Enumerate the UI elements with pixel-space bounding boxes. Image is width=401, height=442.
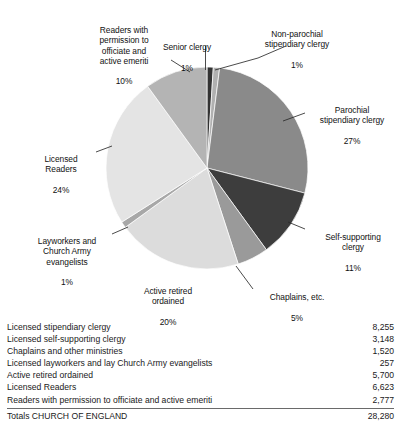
table-cell-value: 6,623 — [302, 382, 394, 394]
table-row-total: Totals CHURCH OF ENGLAND28,280 — [7, 408, 394, 423]
table-cell-label: Licensed self-supporting clergy — [7, 334, 302, 346]
table-cell-value: 257 — [302, 358, 394, 370]
summary-table-container: Licensed stipendiary clergy8,255Licensed… — [7, 322, 394, 423]
pie-label-chaplains: Chaplains, etc. 5% — [255, 282, 339, 323]
pie-label-layworkers-text: Layworkers andChurch Armyevangelists — [38, 236, 96, 266]
pie-label-parochial-pct: 27% — [344, 136, 361, 146]
pie-label-layworkers-pct: 1% — [61, 277, 73, 287]
table-row: Active retired ordained5,700 — [7, 370, 394, 382]
pie-label-non-parochial: Non-parochialstipendiary clergy 1% — [250, 19, 344, 70]
pie-label-readers-permission: Readers withpermission toofficiate andac… — [78, 15, 170, 86]
table-cell-label: Active retired ordained — [7, 370, 302, 382]
table-total-value: 28,280 — [302, 408, 394, 423]
pie-label-non-parochial-pct: 1% — [291, 60, 303, 70]
pie-label-self-supporting-text: Self-supportingclergy — [325, 232, 381, 252]
table-cell-label: Licensed Readers — [7, 382, 302, 394]
pie-label-non-parochial-text: Non-parochialstipendiary clergy — [265, 29, 329, 49]
pie-label-self-supporting-pct: 11% — [345, 263, 361, 273]
pie-label-licensed-readers-pct: 24% — [53, 185, 70, 195]
pie-label-self-supporting: Self-supportingclergy 11% — [308, 222, 398, 273]
table-cell-value: 1,520 — [302, 346, 394, 358]
table-row: Licensed self-supporting clergy3,148 — [7, 334, 394, 346]
table-cell-value: 5,700 — [302, 370, 394, 382]
pie-label-chaplains-text: Chaplains, etc. — [270, 292, 325, 302]
pie-label-readers-permission-pct: 10% — [116, 76, 133, 86]
pie-label-active-retired-text: Active retiredordained — [144, 286, 192, 306]
summary-table: Licensed stipendiary clergy8,255Licensed… — [7, 322, 394, 423]
pie-label-parochial-text: Parochialstipendiary clergy — [320, 105, 384, 125]
summary-table-body: Licensed stipendiary clergy8,255Licensed… — [7, 322, 394, 423]
table-row: Licensed layworkers and lay Church Army … — [7, 358, 394, 370]
pie-label-senior-clergy-pct: 1% — [181, 63, 193, 73]
leader-line-layworkers — [112, 227, 128, 234]
table-cell-value: 2,777 — [302, 395, 394, 409]
pie-label-licensed-readers: LicensedReaders 24% — [26, 144, 96, 195]
leader-line-chaplains — [236, 266, 253, 289]
pie-label-active-retired: Active retiredordained 20% — [122, 276, 214, 327]
pie-label-licensed-readers-text: LicensedReaders — [44, 154, 77, 174]
pie-chart-figure: Senior clergy 1% Non-parochialstipendiar… — [0, 0, 401, 318]
table-row: Chaplains and other ministries1,520 — [7, 346, 394, 358]
pie-label-parochial: Parochialstipendiary clergy 27% — [306, 95, 398, 146]
table-row: Licensed stipendiary clergy8,255 — [7, 322, 394, 334]
table-total-label: Totals CHURCH OF ENGLAND — [7, 408, 302, 423]
pie-label-senior-clergy-text: Senior clergy — [163, 42, 211, 52]
pie-label-readers-permission-text: Readers withpermission toofficiate andac… — [99, 25, 148, 66]
table-cell-label: Readers with permission to officiate and… — [7, 395, 302, 409]
table-cell-label: Licensed stipendiary clergy — [7, 322, 302, 334]
pie-slice-group — [106, 67, 308, 269]
table-row: Licensed Readers6,623 — [7, 382, 394, 394]
table-cell-value: 8,255 — [302, 322, 394, 334]
table-cell-value: 3,148 — [302, 334, 394, 346]
table-cell-label: Licensed layworkers and lay Church Army … — [7, 358, 302, 370]
table-cell-label: Chaplains and other ministries — [7, 346, 302, 358]
pie-label-layworkers: Layworkers andChurch Armyevangelists 1% — [22, 226, 112, 287]
table-row: Readers with permission to officiate and… — [7, 395, 394, 409]
